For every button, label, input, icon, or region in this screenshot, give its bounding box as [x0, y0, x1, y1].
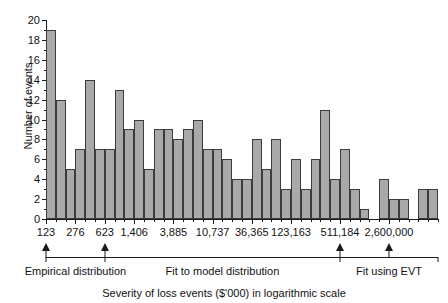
- histogram-bar: [262, 169, 272, 219]
- x-tick-major: [173, 219, 174, 224]
- y-tick-label: 12: [16, 100, 40, 101]
- y-tick-label: 10: [16, 120, 40, 121]
- y-tick-label: 20: [16, 20, 40, 21]
- histogram-bar: [85, 80, 95, 219]
- histogram-bar: [56, 100, 66, 219]
- x-tick-major: [105, 219, 106, 224]
- x-tick-minor: [193, 219, 194, 222]
- x-tick-minor: [311, 219, 312, 222]
- x-tick-minor: [95, 219, 96, 222]
- y-tick-label: 2: [16, 199, 40, 200]
- histogram-bar: [330, 179, 340, 219]
- region-arrow-icon: [101, 243, 109, 251]
- region-divider-tick: [104, 257, 105, 262]
- x-tick-major: [46, 219, 47, 224]
- x-tick-label: 10,737: [196, 226, 230, 238]
- x-tick-minor: [222, 219, 223, 222]
- histogram-bar: [320, 110, 330, 219]
- y-tick-label: 14: [16, 80, 40, 81]
- x-tick-minor: [369, 219, 370, 222]
- region-arrow-icon: [385, 243, 393, 251]
- x-tick-label: 123: [37, 226, 55, 238]
- histogram-bar: [154, 129, 164, 219]
- x-tick-minor: [409, 219, 410, 222]
- x-tick-minor: [144, 219, 145, 222]
- x-tick-minor: [438, 219, 439, 222]
- histogram-bar: [360, 209, 370, 219]
- histogram-bar: [66, 169, 76, 219]
- region-annotation-band: Empirical distributionFit to model distr…: [0, 243, 448, 303]
- x-tick-label: 36,365: [235, 226, 269, 238]
- histogram-bar: [252, 139, 262, 219]
- histogram-bar: [340, 149, 350, 219]
- histogram-bar: [428, 189, 438, 219]
- x-tick-minor: [262, 219, 263, 222]
- x-tick-minor: [183, 219, 184, 222]
- histogram-bar: [124, 129, 134, 219]
- region-end-cap: [46, 257, 47, 262]
- histogram-bar: [399, 199, 409, 219]
- x-tick-label: 1,406: [120, 226, 148, 238]
- x-tick-label: 276: [66, 226, 84, 238]
- x-tick-minor: [418, 219, 419, 222]
- x-tick-major: [252, 219, 253, 224]
- x-tick-label: 3,885: [160, 226, 188, 238]
- histogram-bar: [379, 179, 389, 219]
- histogram-bar: [164, 129, 174, 219]
- x-tick-label: 511,184: [321, 226, 360, 238]
- histogram-bar: [271, 139, 281, 219]
- x-tick-label: 2,600,000: [365, 226, 414, 238]
- histogram-bar: [193, 120, 203, 220]
- x-tick-label: 623: [96, 226, 114, 238]
- histogram-bar: [95, 149, 105, 219]
- histogram-bar: [232, 179, 242, 219]
- region-arrow-icon: [336, 243, 344, 251]
- region-label: Empirical distribution: [25, 265, 126, 277]
- histogram-bar: [389, 199, 399, 219]
- y-tick-label: 16: [16, 60, 40, 61]
- x-tick-minor: [281, 219, 282, 222]
- histogram-bar: [46, 30, 56, 219]
- histogram-bar: [222, 159, 232, 219]
- histogram-bar: [134, 120, 144, 220]
- x-tick-minor: [379, 219, 380, 222]
- histogram-bar: [418, 189, 428, 219]
- histogram-bar: [115, 90, 125, 219]
- histogram-bar: [242, 179, 252, 219]
- histogram-bar: [213, 149, 223, 219]
- histogram-figure: Number of events 02468101214161820 12327…: [0, 0, 448, 303]
- bar-series: [46, 20, 438, 219]
- x-tick-minor: [232, 219, 233, 222]
- region-label: Fit to model distribution: [166, 265, 280, 277]
- y-tick-label: 0: [16, 219, 40, 220]
- x-tick-minor: [360, 219, 361, 222]
- x-tick-major: [389, 219, 390, 224]
- x-tick-minor: [66, 219, 67, 222]
- x-tick-minor: [330, 219, 331, 222]
- x-axis-title: Severity of loss events ($'000) in logar…: [0, 287, 448, 299]
- y-axis-title: Number of events: [22, 21, 34, 191]
- y-tick-label: 8: [16, 139, 40, 140]
- x-tick-minor: [154, 219, 155, 222]
- x-tick-major: [340, 219, 341, 224]
- x-tick-label: 123,163: [271, 226, 311, 238]
- x-tick-minor: [350, 219, 351, 222]
- x-tick-minor: [85, 219, 86, 222]
- x-tick-minor: [124, 219, 125, 222]
- histogram-bar: [183, 129, 193, 219]
- region-arrow-icon: [42, 243, 50, 251]
- x-tick-major: [75, 219, 76, 224]
- y-tick-label: 4: [16, 179, 40, 180]
- x-tick-minor: [203, 219, 204, 222]
- x-tick-minor: [399, 219, 400, 222]
- histogram-bar: [105, 149, 115, 219]
- histogram-bar: [291, 159, 301, 219]
- histogram-bar: [350, 189, 360, 219]
- x-tick-minor: [301, 219, 302, 222]
- histogram-bar: [75, 149, 85, 219]
- x-tick-minor: [115, 219, 116, 222]
- x-tick-minor: [428, 219, 429, 222]
- x-tick-minor: [271, 219, 272, 222]
- histogram-bar: [203, 149, 213, 219]
- x-tick-minor: [56, 219, 57, 222]
